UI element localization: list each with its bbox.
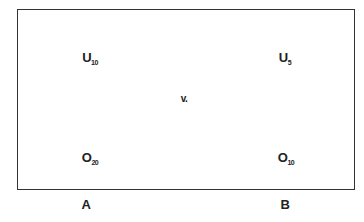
column-label-b: B <box>281 198 290 211</box>
versus-label: v. <box>181 94 188 104</box>
label-bottom-right: O10 <box>278 151 294 166</box>
label-top-right: U5 <box>279 51 291 66</box>
column-label-a: A <box>82 198 91 211</box>
label-top-left: U10 <box>82 51 98 66</box>
label-bottom-left: O20 <box>82 151 98 166</box>
